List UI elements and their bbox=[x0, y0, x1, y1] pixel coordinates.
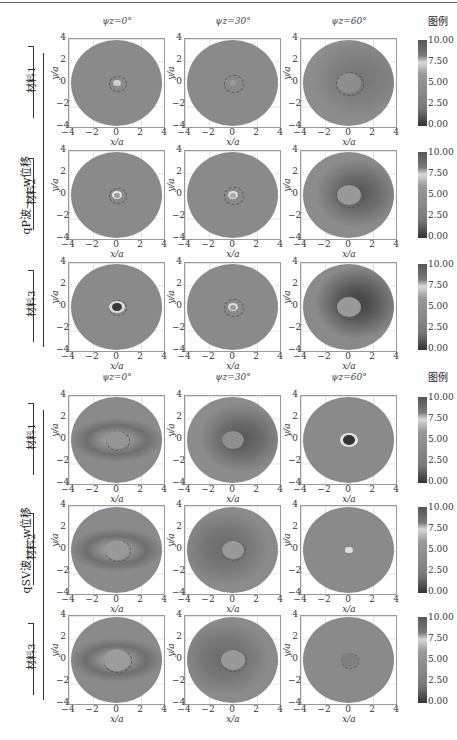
x-tick-label: 0 bbox=[109, 704, 123, 714]
y-tick-label: 4 bbox=[172, 499, 182, 509]
center-spot bbox=[337, 73, 361, 93]
x-tick-label: 0 bbox=[109, 351, 123, 361]
legend-title: 图例 bbox=[428, 369, 448, 384]
x-tick-label: −2 bbox=[201, 484, 215, 494]
material-label: 材料1 bbox=[23, 60, 38, 100]
y-tick-label: 4 bbox=[56, 144, 66, 154]
center-spot bbox=[341, 653, 357, 667]
y-tick-label: 4 bbox=[288, 256, 298, 266]
colorbar-tick-label: 7.50 bbox=[428, 56, 448, 66]
x-tick-label: 2 bbox=[365, 351, 379, 361]
x-tick-label: 4 bbox=[273, 239, 287, 249]
center-spot bbox=[221, 650, 245, 670]
center-spot bbox=[337, 297, 361, 317]
x-tick-label: 2 bbox=[249, 239, 263, 249]
column-title: ψz=0° bbox=[72, 372, 162, 382]
colorbar-tick-label: 5.00 bbox=[428, 434, 448, 444]
x-axis-label: x/a bbox=[102, 361, 132, 371]
y-tick-label: −2 bbox=[288, 675, 298, 685]
material-bracket-top bbox=[28, 46, 34, 47]
column-title: ψz=0° bbox=[72, 16, 162, 26]
contour-panel bbox=[68, 505, 165, 595]
material-label: 材料1 bbox=[23, 417, 38, 457]
contour-panel bbox=[300, 505, 397, 595]
contour-panel bbox=[184, 38, 281, 128]
colorbar-tick-label: 0.00 bbox=[428, 343, 448, 353]
x-tick-label: −2 bbox=[317, 239, 331, 249]
y-axis-label: y/a bbox=[282, 643, 292, 656]
y-tick-label: 4 bbox=[56, 389, 66, 399]
y-tick-label: −2 bbox=[56, 455, 66, 465]
contour-panel bbox=[300, 38, 397, 128]
x-axis-label: x/a bbox=[334, 137, 364, 147]
y-axis-label: y/a bbox=[50, 643, 60, 656]
x-axis-label: x/a bbox=[334, 249, 364, 259]
y-tick-label: 2 bbox=[172, 411, 182, 421]
colorbar-tick-label: 2.50 bbox=[428, 455, 448, 465]
y-tick-label: 4 bbox=[288, 389, 298, 399]
y-tick-label: 4 bbox=[56, 609, 66, 619]
y-tick-label: −2 bbox=[172, 455, 182, 465]
x-tick-label: 2 bbox=[133, 704, 147, 714]
legend-title: 图例 bbox=[428, 13, 448, 28]
x-tick-label: −2 bbox=[201, 594, 215, 604]
colorbar-tick-label: 5.00 bbox=[428, 301, 448, 311]
y-axis-label: y/a bbox=[282, 423, 292, 436]
x-axis-label: x/a bbox=[102, 714, 132, 724]
y-tick-label: 2 bbox=[172, 631, 182, 641]
x-axis-label: x/a bbox=[334, 714, 364, 724]
y-axis-label: y/a bbox=[50, 178, 60, 191]
colorbar bbox=[418, 264, 427, 350]
x-tick-label: 0 bbox=[341, 127, 355, 137]
x-tick-label: −4 bbox=[177, 704, 191, 714]
contour-panel bbox=[68, 615, 165, 705]
x-tick-label: 4 bbox=[389, 484, 403, 494]
material-bracket-top bbox=[28, 158, 34, 159]
x-tick-label: −4 bbox=[61, 127, 75, 137]
x-tick-label: 0 bbox=[225, 484, 239, 494]
center-spot bbox=[337, 185, 361, 205]
y-tick-label: 2 bbox=[288, 631, 298, 641]
colorbar-tick-label: 0.00 bbox=[428, 586, 448, 596]
contour-panel bbox=[184, 615, 281, 705]
contour-panel bbox=[184, 395, 281, 485]
x-tick-label: 2 bbox=[365, 127, 379, 137]
x-tick-label: 0 bbox=[341, 594, 355, 604]
y-tick-label: 2 bbox=[56, 278, 66, 288]
colorbar-tick-label: 7.50 bbox=[428, 413, 448, 423]
contour-panel bbox=[68, 38, 165, 128]
y-tick-label: −2 bbox=[288, 98, 298, 108]
x-tick-label: 2 bbox=[365, 704, 379, 714]
colorbar-tick-label: 10.00 bbox=[428, 35, 454, 45]
y-tick-label: 4 bbox=[288, 144, 298, 154]
y-tick-label: 4 bbox=[172, 256, 182, 266]
x-tick-label: 4 bbox=[389, 594, 403, 604]
x-tick-label: −4 bbox=[177, 484, 191, 494]
section-bracket-line bbox=[43, 410, 44, 700]
colorbar bbox=[418, 507, 427, 593]
center-spot bbox=[105, 540, 129, 560]
x-tick-label: −4 bbox=[293, 484, 307, 494]
x-axis-label: x/a bbox=[218, 249, 248, 259]
material-bracket-top bbox=[28, 513, 34, 514]
y-tick-label: 4 bbox=[288, 609, 298, 619]
x-tick-label: −2 bbox=[317, 594, 331, 604]
x-tick-label: −2 bbox=[85, 704, 99, 714]
column-title: ψz=30° bbox=[188, 16, 278, 26]
colorbar-tick-label: 2.50 bbox=[428, 322, 448, 332]
y-tick-label: 4 bbox=[56, 499, 66, 509]
x-tick-label: 2 bbox=[365, 484, 379, 494]
contour-panel bbox=[68, 150, 165, 240]
y-tick-label: 2 bbox=[56, 521, 66, 531]
material-label: 材料2 bbox=[23, 527, 38, 567]
y-tick-label: −2 bbox=[172, 565, 182, 575]
y-tick-label: 2 bbox=[172, 166, 182, 176]
y-tick-label: 2 bbox=[288, 166, 298, 176]
x-axis-label: x/a bbox=[334, 494, 364, 504]
colorbar-tick-label: 7.50 bbox=[428, 633, 448, 643]
x-tick-label: −4 bbox=[61, 704, 75, 714]
y-tick-label: −2 bbox=[288, 455, 298, 465]
x-axis-label: x/a bbox=[102, 249, 132, 259]
x-tick-label: 0 bbox=[341, 239, 355, 249]
center-spot bbox=[343, 435, 355, 445]
